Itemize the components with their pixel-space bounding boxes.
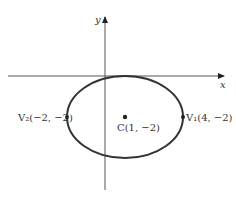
- vertex-left-label: V₂(−2, −2): [17, 112, 73, 123]
- vertex-right-point: [181, 115, 185, 119]
- vertex-right-label: V₁(4, −2): [185, 112, 233, 123]
- center-point: [123, 115, 127, 119]
- x-axis-label: x: [220, 79, 226, 90]
- center-label: C(1, −2): [117, 122, 160, 133]
- ellipse-diagram: x y C(1, −2) V₁(4, −2) V₂(−2, −2): [0, 0, 236, 202]
- y-axis-label: y: [94, 14, 101, 25]
